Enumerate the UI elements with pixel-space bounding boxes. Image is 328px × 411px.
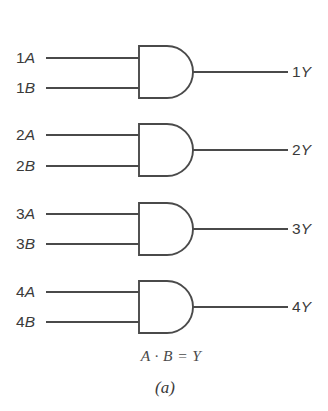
gate-4-input-a-label: 4A	[16, 284, 35, 300]
gate-4-input-b-label: 4B	[16, 314, 35, 330]
gate-3-group	[46, 203, 288, 255]
gate-1-output-label: 1Y	[292, 64, 311, 80]
boolean-formula: A · B = Y	[111, 348, 231, 364]
gate-4-and-shape	[139, 281, 193, 333]
gate-1-input-a-label: 1A	[16, 50, 35, 66]
gate-2-output-label: 2Y	[292, 142, 311, 158]
gate-2-input-a-label: 2A	[16, 127, 35, 143]
figure-caption: (a)	[125, 379, 205, 396]
gate-4-output-label: 4Y	[292, 299, 311, 315]
gate-3-and-shape	[139, 203, 193, 255]
gate-1-group	[46, 46, 288, 98]
gate-2-and-shape	[139, 124, 193, 176]
gate-1-input-b-label: 1B	[16, 80, 35, 96]
gate-3-input-a-label: 3A	[16, 206, 35, 222]
logic-diagram-figure: 1A 1B 1Y 2A 2B 2Y 3A 3B 3Y 4A 4B 4Y A · …	[0, 0, 328, 411]
gate-2-group	[46, 124, 288, 176]
gate-1-and-shape	[139, 46, 193, 98]
gate-2-input-b-label: 2B	[16, 158, 35, 174]
gate-3-output-label: 3Y	[292, 221, 311, 237]
gate-4-group	[46, 281, 288, 333]
gate-3-input-b-label: 3B	[16, 236, 35, 252]
